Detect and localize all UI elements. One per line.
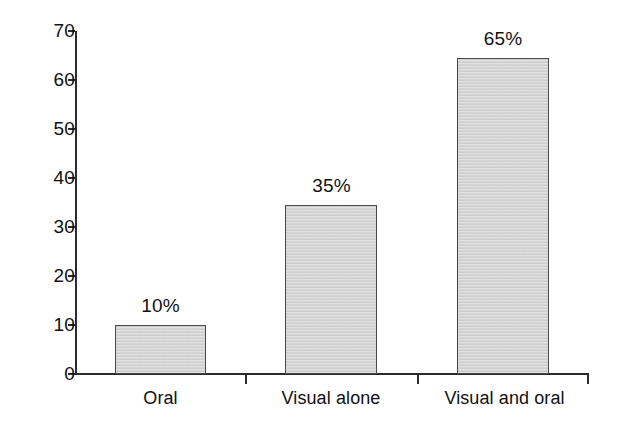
y-tick-label: 70 [31,21,75,40]
x-tick-mark [245,375,247,384]
y-tick-label: 20 [31,266,75,285]
bar-oral[interactable] [115,325,206,374]
bar-visual-alone[interactable] [285,205,377,374]
x-category-label-oral: Oral [110,388,211,408]
bar-value-label: 35% [281,176,382,195]
x-category-label-visual-and-oral: Visual and oral [423,388,586,408]
y-tick-label: 10 [31,315,75,334]
y-tick-label: 40 [31,168,75,187]
x-tick-mark [417,375,419,384]
y-tick-label: 60 [31,70,75,89]
x-tick-mark [587,375,589,384]
y-tick-label: 50 [31,119,75,138]
x-category-label-visual-alone: Visual alone [251,388,411,408]
bar-chart: 0 10 20 30 40 50 60 70 10% 35% 65% Oral … [0,0,618,436]
y-tick-label: 0 [31,364,75,383]
bar-value-label: 65% [448,29,558,48]
y-axis-line [75,31,77,375]
bar-value-label: 10% [110,296,211,315]
bar-visual-and-oral[interactable] [457,58,549,374]
y-tick-label: 30 [31,217,75,236]
